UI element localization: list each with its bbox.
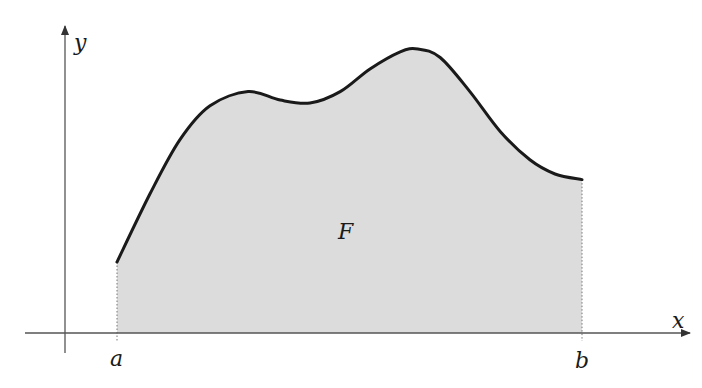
lower-bound-label: a [110,346,123,371]
x-axis-label: x [672,308,685,333]
y-axis-label: y [73,30,87,55]
area-label: F [337,219,354,244]
area-region [117,49,582,333]
upper-bound-label: b [575,348,589,373]
area-diagram: y x a b F [0,0,702,388]
